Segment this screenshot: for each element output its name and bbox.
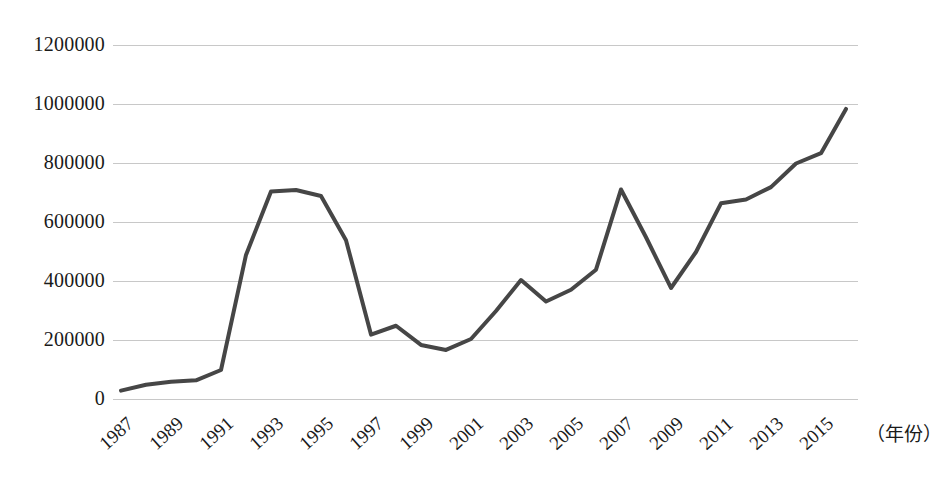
y-axis-tick-label: 1200000	[34, 33, 105, 56]
y-axis-tick-label: 1000000	[34, 92, 105, 115]
y-axis-tick-label: 800000	[44, 151, 105, 174]
data-series-line	[121, 109, 846, 391]
y-axis-tick-label: 600000	[44, 210, 105, 233]
x-axis-title: （年份）	[866, 419, 934, 446]
y-axis-tick-label: 200000	[44, 328, 105, 351]
y-axis-tick-label: 0	[95, 387, 105, 410]
y-axis-tick-label: 400000	[44, 269, 105, 292]
